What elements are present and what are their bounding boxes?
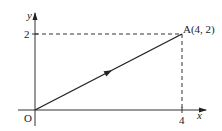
y-tick-label: 2 — [24, 28, 30, 40]
y-axis-label: y — [26, 9, 32, 21]
origin-label: O — [24, 112, 32, 124]
x-axis-label: x — [196, 109, 202, 121]
coordinate-diagram: y 2 O 4 x A(4, 2) — [0, 0, 222, 131]
x-tick-label: 4 — [179, 114, 185, 126]
point-A-label: A(4, 2) — [183, 23, 215, 36]
vector-direction-arrow-icon — [104, 67, 114, 76]
